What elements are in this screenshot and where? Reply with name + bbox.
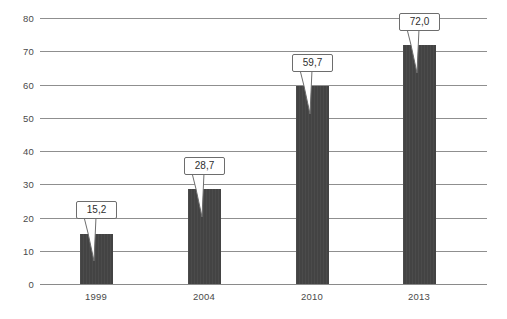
x-tick-label: 2010 (282, 292, 342, 302)
x-tick-label: 1999 (66, 292, 126, 302)
bar-2013 (403, 45, 436, 284)
y-axis: 80 70 60 50 40 30 20 10 0 (0, 18, 34, 284)
data-label-2010: 59,7 (292, 54, 333, 72)
callout-tail-2013 (405, 29, 427, 79)
x-tick-label: 2004 (174, 292, 234, 302)
y-tick-label: 10 (6, 247, 34, 257)
callout-tail-2004 (190, 173, 212, 223)
data-label-2013: 72,0 (399, 13, 440, 31)
bar-chart: 80 70 60 50 40 30 20 10 0 (0, 0, 507, 319)
x-tick-label: 2013 (389, 292, 449, 302)
y-tick-label: 40 (6, 147, 34, 157)
plot-area: 15,2 28,7 59,7 72,0 (40, 18, 487, 284)
x-axis: 1999 2004 2010 2013 (40, 292, 487, 310)
callout-tail-2010 (298, 70, 320, 120)
y-tick-label: 80 (6, 14, 34, 24)
y-tick-label: 0 (6, 280, 34, 290)
data-label-2004: 28,7 (184, 157, 225, 175)
gridline-baseline (40, 284, 487, 285)
y-tick-label: 20 (6, 214, 34, 224)
y-tick-label: 70 (6, 47, 34, 57)
y-tick-label: 60 (6, 81, 34, 91)
callout-tail-1999 (82, 217, 104, 267)
y-tick-label: 50 (6, 114, 34, 124)
data-label-1999: 15,2 (76, 201, 117, 219)
y-tick-label: 30 (6, 180, 34, 190)
